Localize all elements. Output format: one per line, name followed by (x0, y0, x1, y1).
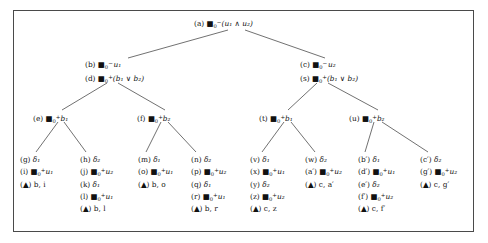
leaf-v-line-3: (y) δ₂ (250, 180, 285, 190)
box-modal-operator-icon: ■0+ (319, 165, 334, 179)
operator-superscript: + (280, 114, 285, 120)
leaf-bprime-tag-5: (▲) (358, 204, 369, 213)
box-modal-operator-icon: ■0+ (204, 165, 219, 179)
box-modal-operator-icon: ■0− (98, 58, 113, 72)
box-modal-operator-icon: ■0+ (91, 190, 106, 204)
operator-superscript: + (101, 192, 106, 198)
leaf-h-delta-3: δ₁ (93, 180, 100, 189)
node-a-line-1: (a) ■0−(u₁ ∧ u₂) (194, 17, 253, 31)
node-d-line: (d) ■0+(b₁ ∨ b₂) (85, 72, 144, 86)
node-b-d: (b) ■0− u₁ (d) ■0+(b₁ ∨ b₂) (85, 58, 144, 86)
leaf-m-tag-3: (▲) (138, 180, 149, 189)
operator-superscript: + (161, 167, 166, 173)
node-u: (u) ■0+b₂ (349, 112, 385, 126)
operator-superscript: + (158, 114, 163, 120)
leaf-m-tag-1: (m) (138, 155, 151, 164)
leaf-n-arg-4: u₁ (218, 192, 226, 201)
box-modal-operator-icon: ■0+ (435, 165, 450, 179)
leaf-n-line-2: (p) ■0+u₂ (191, 165, 227, 179)
node-a: (a) ■0−(u₁ ∧ u₂) (194, 17, 253, 31)
leaf-n-closure: b, r (205, 204, 218, 213)
operator-superscript: + (445, 167, 450, 173)
leaf-n: (n) δ₂(p) ■0+u₂(q) δ₁(r) ■0+u₁(▲) b, r (191, 155, 227, 215)
node-e-line: (e) ■0+b₁ (33, 112, 68, 126)
leaf-v-arg-4: u₂ (277, 192, 285, 201)
operator-superscript: + (214, 167, 219, 173)
leaf-bprime-delta-3: δ₂ (372, 180, 379, 189)
leaf-v-tag-3: (y) (250, 180, 260, 189)
leaf-cprime-tag-1: (c′) (420, 155, 432, 164)
leaf-h-tag-3: (k) (80, 180, 90, 189)
node-f-tag: (f) (137, 114, 146, 123)
leaf-w-arg-2: u₂ (334, 168, 342, 177)
leaf-w-delta-1: δ₂ (319, 155, 326, 164)
leaf-w-tag-2: (a′) (305, 168, 317, 177)
leaf-h-tag-5: (▲) (80, 204, 91, 213)
box-modal-operator-icon: ■0+ (98, 72, 113, 86)
leaf-h-tag-2: (j) (80, 168, 88, 177)
leaf-n-delta-3: δ₁ (204, 180, 211, 189)
node-u-tag: (u) (349, 114, 360, 123)
leaf-cprime-line-1: (c′) δ₂ (420, 155, 457, 165)
leaf-h-line-3: (k) δ₁ (80, 180, 113, 190)
leaf-v-line-4: (z) ■0+u₂ (250, 190, 285, 204)
leaf-m-arg-2: u₁ (166, 168, 174, 177)
box-modal-operator-icon: ■0− (207, 17, 222, 31)
node-a-tag: (a) (194, 19, 204, 28)
leaf-m-delta-1: δ₁ (153, 155, 160, 164)
leaf-v: (v) δ₁(x) ■0+u₁(y) δ₂(z) ■0+u₂(▲) c, z (250, 155, 285, 215)
operator-superscript: + (41, 167, 46, 173)
leaf-w-line-3: (▲) c, a′ (305, 180, 342, 190)
leaf-v-delta-3: δ₂ (262, 180, 269, 189)
leaf-bprime: (b′) δ₁(d′) ■0+u₁(e′) δ₂(f′) ■0+u₂(▲) c,… (358, 155, 395, 215)
leaf-bprime-tag-4: (f′) (358, 192, 368, 201)
node-u-arg: b₂ (377, 114, 385, 123)
node-s-line: (s) ■0+(b₁ ∨ b₂) (300, 72, 358, 86)
leaf-m-line-3: (▲) b, o (138, 180, 173, 190)
box-modal-operator-icon: ■0+ (270, 112, 285, 126)
node-e-arg: b₁ (60, 114, 68, 123)
box-modal-operator-icon: ■0+ (148, 112, 163, 126)
leaf-h-line-1: (h) δ₂ (80, 155, 113, 165)
node-f-line: (f) ■0+b₂ (137, 112, 171, 126)
box-modal-operator-icon: ■0+ (371, 190, 386, 204)
leaf-v-delta-1: δ₁ (262, 155, 269, 164)
leaf-v-arg-2: u₁ (277, 168, 285, 177)
node-c-tag: (c) (300, 60, 310, 69)
operator-superscript: + (383, 167, 388, 173)
node-b-arg: u₁ (114, 60, 122, 69)
node-t-tag: (t) (259, 114, 268, 123)
leaf-bprime-tag-3: (e′) (358, 180, 370, 189)
operator-superscript: − (217, 19, 222, 25)
leaf-cprime-tag-2: (g′) (420, 168, 432, 177)
operator-superscript: + (213, 192, 218, 198)
node-e: (e) ■0+b₁ (33, 112, 68, 126)
leaf-w-tag-1: (w) (305, 155, 317, 164)
operator-superscript: + (108, 74, 113, 80)
leaf-v-line-2: (x) ■0+u₁ (250, 165, 285, 179)
leaf-v-line-1: (v) δ₁ (250, 155, 285, 165)
node-c-arg: u₂ (328, 60, 336, 69)
leaf-m-line-2: (o) ■0+u₁ (138, 165, 173, 179)
box-modal-operator-icon: ■0+ (262, 190, 277, 204)
leaf-cprime-delta-1: δ₂ (434, 155, 441, 164)
leaf-bprime-line-2: (d′) ■0+u₁ (358, 165, 395, 179)
leaf-n-tag-2: (p) (191, 168, 202, 177)
leaf-n-tag-1: (n) (191, 155, 202, 164)
leaf-g-tag-3: (▲) (20, 180, 31, 189)
node-b-tag: (b) (85, 60, 96, 69)
leaf-bprime-closure: c, f′ (372, 204, 385, 213)
leaf-bprime-line-3: (e′) δ₂ (358, 180, 395, 190)
leaf-w-closure: c, a′ (319, 180, 334, 189)
leaf-h-line-2: (j) ■0+u₂ (80, 165, 113, 179)
leaf-h-line-5: (▲) b, l (80, 204, 113, 214)
leaf-n-line-1: (n) δ₂ (191, 155, 227, 165)
operator-superscript: + (330, 167, 335, 173)
box-modal-operator-icon: ■0− (312, 58, 327, 72)
node-e-tag: (e) (33, 114, 43, 123)
node-t: (t) ■0+b₁ (259, 112, 293, 126)
node-b-line: (b) ■0− u₁ (85, 58, 144, 72)
leaf-w-tag-3: (▲) (305, 180, 316, 189)
leaf-bprime-arg-4: u₂ (386, 192, 394, 201)
leaf-v-tag-5: (▲) (250, 204, 261, 213)
